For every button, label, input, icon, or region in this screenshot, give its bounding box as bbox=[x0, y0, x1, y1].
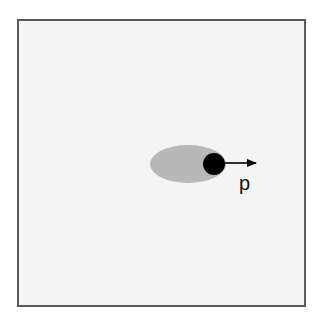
momentum-label: p bbox=[239, 172, 250, 194]
particle-dot bbox=[203, 153, 225, 175]
diagram-canvas: p bbox=[0, 0, 320, 323]
